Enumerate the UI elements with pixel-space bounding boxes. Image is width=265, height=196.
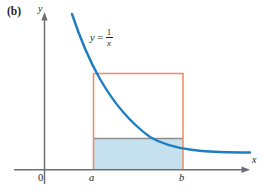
figure-graphic [0, 0, 265, 196]
figure-container: (b) y x 0 a b y = 1 x [0, 0, 265, 196]
equation-denominator: x [106, 38, 112, 48]
equation-equals-sign: = [97, 33, 103, 44]
x-tick-label-a: a [89, 173, 94, 184]
equation-numerator: 1 [106, 28, 113, 38]
x-axis-arrowhead [242, 167, 251, 173]
panel-label: (b) [7, 6, 21, 18]
x-axis-label: x [252, 155, 256, 165]
inscribed-rectangle [94, 138, 184, 170]
curve-equation-label: y = 1 x [90, 28, 113, 48]
origin-label: 0 [38, 173, 43, 184]
equation-fraction: 1 x [106, 28, 113, 48]
equation-lhs: y [90, 33, 95, 44]
y-axis-label: y [38, 4, 42, 14]
x-tick-label-b: b [179, 173, 184, 184]
